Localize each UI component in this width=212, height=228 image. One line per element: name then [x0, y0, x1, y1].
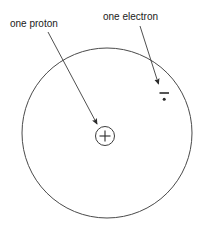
atom-diagram-canvas: one proton one electron [0, 0, 212, 228]
proton-nucleus [96, 127, 115, 146]
electron-particle [160, 93, 170, 101]
atom-diagram: one proton one electron [0, 0, 212, 228]
proton-label: one proton [10, 18, 58, 29]
electron-orbit-circle [22, 48, 192, 218]
electron-leader-arrow [140, 26, 159, 84]
electron-dot [163, 98, 166, 101]
proton-leader-arrow [48, 32, 97, 124]
electron-label: one electron [103, 11, 158, 22]
